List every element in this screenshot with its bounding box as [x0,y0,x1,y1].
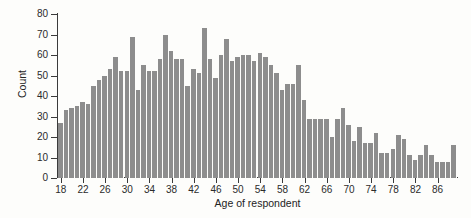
y-axis-tick-mark [51,158,57,159]
x-axis-tick-label: 58 [270,184,294,195]
x-axis-tick-mark [149,178,150,183]
y-axis-tick-label-wrap: 0 [0,178,48,179]
y-axis-tick-label-wrap: 80 [0,14,48,15]
y-axis-tick-label-wrap: 20 [0,137,48,138]
x-axis-tick-mark [282,178,283,183]
y-axis-tick-label: 30 [4,112,48,122]
x-axis-tick-label: 74 [359,184,383,195]
y-axis-tick-label-wrap: 10 [0,158,48,159]
x-axis-tick-mark [194,178,195,183]
y-axis-tick-label: 20 [4,132,48,142]
x-axis-tick-mark [327,178,328,183]
y-axis-title: Count [16,56,28,112]
y-axis-tick-mark [51,178,57,179]
x-axis-tick-label: 46 [204,184,228,195]
x-axis-tick-label: 30 [115,184,139,195]
x-axis-title: Age of respondent [58,197,457,209]
x-axis-tick-label: 86 [426,184,450,195]
x-axis-tick-mark [349,178,350,183]
y-axis-tick-mark [51,96,57,97]
x-axis-tick-label: 54 [248,184,272,195]
x-axis-tick-label: 78 [381,184,405,195]
x-axis-tick-label: 70 [337,184,361,195]
y-axis-tick-label: 80 [4,9,48,19]
x-axis-tick-mark [371,178,372,183]
x-axis-tick-label: 42 [182,184,206,195]
x-axis-tick-mark [238,178,239,183]
x-axis-tick-mark [127,178,128,183]
x-axis-tick-mark [393,178,394,183]
x-axis-tick-label: 22 [71,184,95,195]
x-axis-tick-mark [61,178,62,183]
y-axis-tick-mark [51,35,57,36]
x-axis-tick-mark [415,178,416,183]
x-axis-tick-mark [438,178,439,183]
x-axis-tick-label: 62 [293,184,317,195]
y-axis-tick-mark [51,55,57,56]
x-axis-tick-label: 66 [315,184,339,195]
y-axis-tick-label: 0 [4,173,48,183]
x-axis-tick-mark [172,178,173,183]
y-axis-tick-label: 70 [4,30,48,40]
x-axis-tick-mark [105,178,106,183]
x-axis-tick-mark [83,178,84,183]
x-axis-tick-label: 82 [403,184,427,195]
x-axis-tick-label: 38 [160,184,184,195]
y-axis-tick-label: 10 [4,153,48,163]
x-axis-tick-mark [216,178,217,183]
x-axis-tick-label: 50 [226,184,250,195]
y-axis-tick-label-wrap: 70 [0,35,48,36]
x-axis-tick-mark [305,178,306,183]
y-axis-tick-label-wrap: 30 [0,117,48,118]
y-axis-tick-mark [51,76,57,77]
histogram-bar [451,145,457,178]
histogram-figure: 01020304050607080 1822263034384246505458… [0,0,471,218]
x-axis-tick-label: 34 [137,184,161,195]
y-axis-tick-mark [51,14,57,15]
x-axis-tick-label: 18 [49,184,73,195]
y-axis-tick-mark [51,117,57,118]
plot-area [58,14,457,178]
x-axis-tick-mark [260,178,261,183]
x-axis-tick-label: 26 [93,184,117,195]
y-axis-tick-mark [51,137,57,138]
